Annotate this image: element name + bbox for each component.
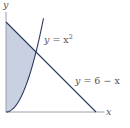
line-label-eq: = 6 − x [80, 75, 120, 86]
parabola-label-sup: 2 [69, 33, 73, 41]
parabola-label-eq: = x [49, 34, 69, 45]
parabola-label: y = x2 [43, 33, 73, 45]
line-label: y = 6 − x [74, 75, 120, 86]
region-plot: y x y = x2 y = 6 − x [0, 0, 130, 128]
x-axis-label: x [106, 106, 112, 117]
y-axis-label: y [2, 0, 9, 10]
